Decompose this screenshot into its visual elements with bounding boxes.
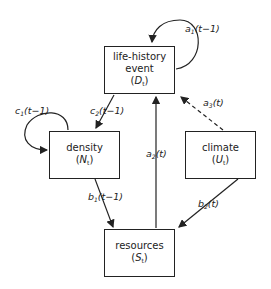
label-a3: a3(t) — [203, 97, 224, 109]
label-a1: a1(t−1) — [185, 23, 220, 35]
node-life-history-event: life-history event (Dt) — [104, 46, 175, 94]
label-c2: c2(t−1) — [90, 105, 124, 117]
label-c1: c1(t−1) — [15, 105, 49, 117]
label-b2: b2(t) — [198, 198, 219, 210]
label-a2: a2(t) — [146, 148, 167, 160]
node-resources: resources (St) — [104, 229, 175, 277]
node-climate: climate (Ut) — [185, 131, 256, 179]
edge-b1 — [95, 179, 113, 227]
label-b1: b1(t−1) — [88, 191, 123, 203]
node-density: density (Nt) — [49, 131, 120, 179]
